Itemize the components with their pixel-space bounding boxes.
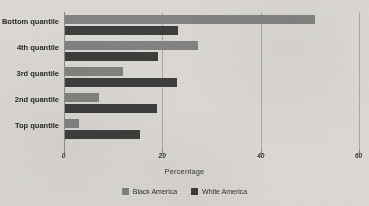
bar-chart: Bottom quantile 4th quantile 3rd quantil…	[0, 0, 369, 206]
bar-white-america-top-quantile	[64, 130, 140, 139]
legend-swatch-icon-white-america	[191, 188, 198, 195]
bar-white-america-2nd-quantile	[64, 104, 157, 113]
y-axis-category-labels: Bottom quantile 4th quantile 3rd quantil…	[0, 12, 59, 146]
bar-black-america-2nd-quantile	[64, 93, 99, 102]
bar-black-america-3rd-quantile	[64, 67, 123, 76]
x-tick-label-40: 40	[257, 152, 264, 159]
bar-black-america-top-quantile	[64, 119, 79, 128]
bar-black-america-bottom-quantile	[64, 15, 315, 24]
bar-white-america-bottom-quantile	[64, 26, 178, 35]
legend-label-white-america: White America	[202, 188, 247, 195]
bar-white-america-4th-quantile	[64, 52, 158, 61]
legend-swatch-icon-black-america	[122, 188, 129, 195]
legend-item-black-america[interactable]: Black America	[122, 188, 177, 195]
x-tick-label-0: 0	[62, 152, 66, 159]
legend-item-white-america[interactable]: White America	[191, 188, 247, 195]
y-label-bottom-quantile: Bottom quantile	[0, 17, 59, 26]
gridline-40	[261, 12, 262, 150]
y-label-2nd-quantile: 2nd quantile	[0, 95, 59, 104]
gridline-60	[359, 12, 360, 150]
y-axis-line	[64, 12, 65, 150]
y-label-4th-quantile: 4th quantile	[0, 43, 59, 52]
chart-legend: Black America White America	[0, 188, 369, 195]
x-axis-title: Percentage	[0, 167, 369, 176]
plot-area	[64, 12, 360, 146]
y-label-top-quantile: Top quantile	[0, 121, 59, 130]
x-tick-label-20: 20	[159, 152, 166, 159]
x-tick-label-60: 60	[355, 152, 362, 159]
y-label-3rd-quantile: 3rd quantile	[0, 69, 59, 78]
bar-black-america-4th-quantile	[64, 41, 198, 50]
bar-white-america-3rd-quantile	[64, 78, 177, 87]
legend-label-black-america: Black America	[133, 188, 177, 195]
